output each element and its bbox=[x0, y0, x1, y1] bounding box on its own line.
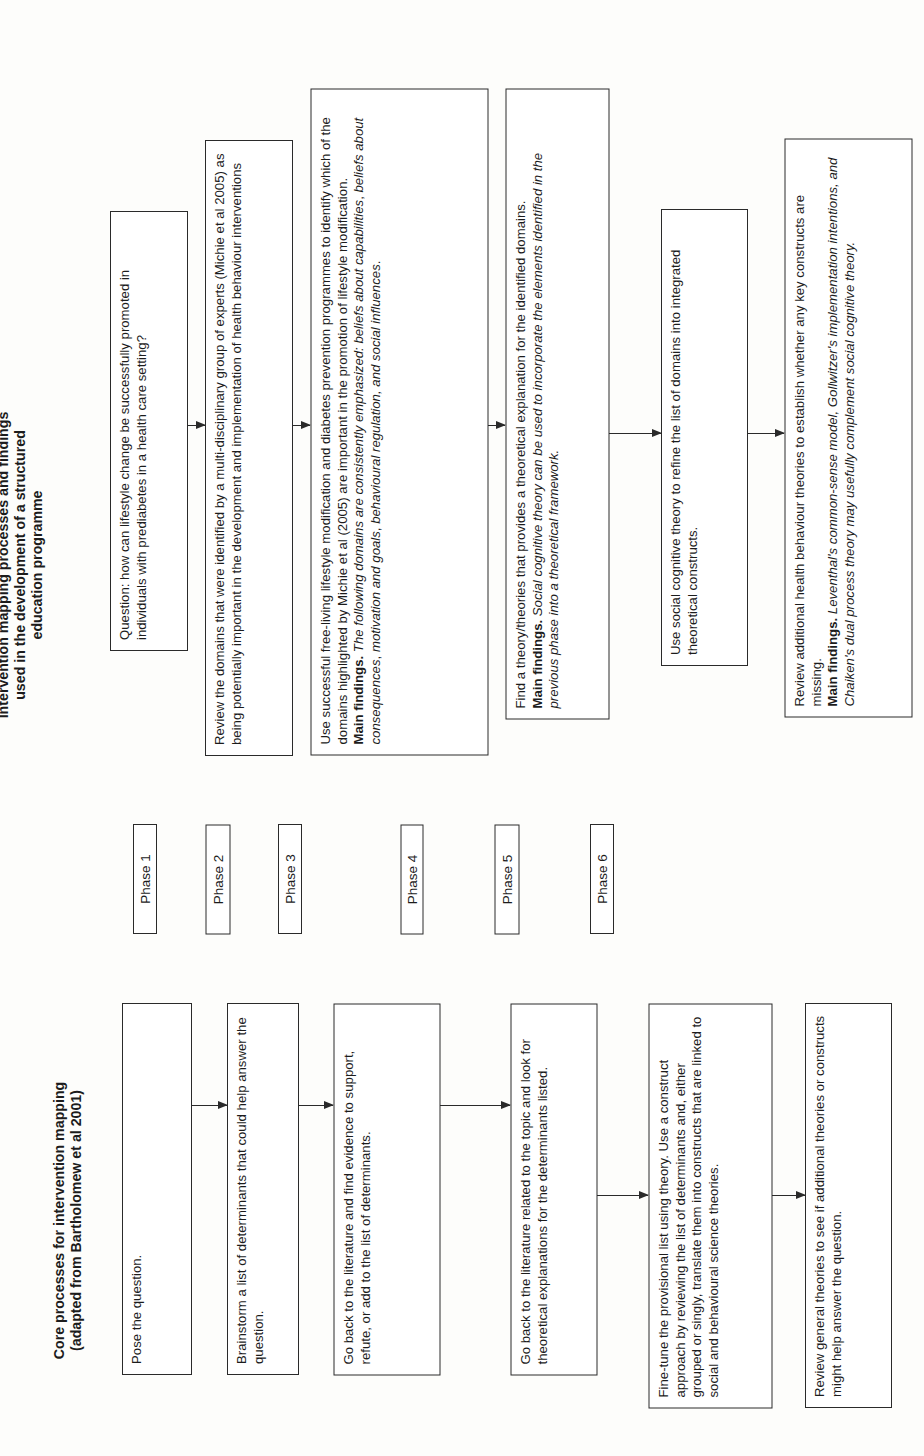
finding-arrow-4-5 bbox=[609, 433, 661, 434]
core-step-2-text: Brainstorm a list of determinants that c… bbox=[234, 1014, 267, 1364]
finding-step-1-text: Question: how can lifestyle change be su… bbox=[117, 270, 149, 640]
finding-step-4-box: Find a theory/theories that provides a t… bbox=[505, 88, 609, 719]
core-step-4-box: Go back to the literature related to the… bbox=[510, 1003, 597, 1375]
core-step-3-box: Go back to the literature and find evide… bbox=[333, 1003, 440, 1375]
finding-step-3-findings-label: Main findings. bbox=[350, 655, 365, 744]
right-panel-title: Intervention mapping processes and findi… bbox=[0, 395, 55, 735]
finding-step-1-box: Question: how can lifestyle change be su… bbox=[110, 211, 188, 651]
core-step-3-text: Go back to the literature and find evide… bbox=[340, 1014, 373, 1364]
finding-step-4-text: Find a theory/theories that provides a t… bbox=[512, 200, 527, 708]
phase-6-label: Phase 6 bbox=[590, 824, 614, 934]
left-panel-title: Core processes for intervention mapping … bbox=[50, 1075, 105, 1365]
core-step-4-text: Go back to the literature related to the… bbox=[517, 1014, 550, 1364]
core-arrow-5-6 bbox=[772, 1195, 805, 1196]
core-step-6-text: Review general theories to see if additi… bbox=[812, 1014, 845, 1397]
finding-arrow-3-4 bbox=[488, 425, 505, 426]
finding-step-4-findings-label: Main findings. bbox=[529, 619, 544, 708]
finding-arrow-5-6 bbox=[748, 433, 784, 434]
phase-3-label: Phase 3 bbox=[278, 824, 302, 934]
finding-step-6-text: Review additional health behaviour theor… bbox=[791, 194, 823, 706]
core-step-6-box: Review general theories to see if additi… bbox=[805, 1003, 892, 1408]
finding-step-5-box: Use social cognitive theory to refine th… bbox=[661, 209, 748, 666]
core-step-2-box: Brainstorm a list of determinants that c… bbox=[227, 1003, 299, 1375]
phase-5-label: Phase 5 bbox=[494, 824, 519, 934]
core-arrow-1-2 bbox=[192, 1105, 227, 1106]
phase-4-label: Phase 4 bbox=[400, 824, 423, 934]
finding-step-3-text: Use successful free-living lifestyle mod… bbox=[317, 117, 349, 744]
core-step-1-box: Pose the question. bbox=[122, 1003, 192, 1375]
core-arrow-2-3 bbox=[299, 1105, 333, 1106]
finding-step-2-box: Review the domains that were identified … bbox=[205, 140, 293, 756]
core-step-5-text: Fine-tune the provisional list using the… bbox=[655, 1014, 721, 1397]
finding-arrow-1-2 bbox=[188, 425, 205, 426]
phase-2-label: Phase 2 bbox=[205, 824, 230, 934]
finding-step-5-text: Use social cognitive theory to refine th… bbox=[668, 250, 700, 655]
phase-1-label: Phase 1 bbox=[133, 824, 157, 934]
finding-step-3-box: Use successful free-living lifestyle mod… bbox=[310, 88, 488, 755]
finding-step-3-findings-intro: The following domains are consistently e… bbox=[350, 343, 365, 652]
finding-step-2-text: Review the domains that were identified … bbox=[212, 153, 244, 745]
core-arrow-4-5 bbox=[597, 1195, 648, 1196]
core-step-1-text: Pose the question. bbox=[129, 1014, 146, 1364]
core-arrow-3-4 bbox=[440, 1105, 510, 1106]
finding-step-6-findings-label: Main findings. bbox=[824, 617, 839, 706]
finding-arrow-2-3 bbox=[293, 425, 310, 426]
finding-step-6-box: Review additional health behaviour theor… bbox=[784, 138, 912, 717]
core-step-5-box: Fine-tune the provisional list using the… bbox=[648, 1003, 772, 1408]
